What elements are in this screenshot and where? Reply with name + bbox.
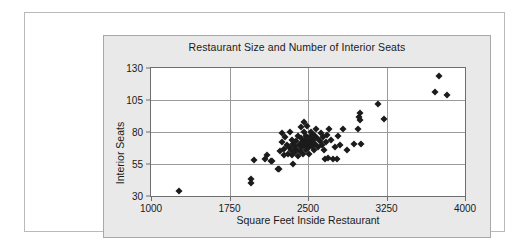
x-tick-label: 2500	[297, 203, 319, 214]
scatter-point	[175, 187, 182, 194]
gridline-vertical	[387, 68, 388, 196]
scatter-point	[343, 146, 350, 153]
scatter-point	[248, 180, 255, 187]
x-tick-mark	[465, 196, 466, 201]
scatter-point	[444, 91, 451, 98]
x-tick-mark	[151, 196, 152, 201]
y-tick-label: 30	[132, 191, 151, 202]
scatter-point	[357, 117, 364, 124]
x-tick-label: 3250	[375, 203, 397, 214]
scatter-point	[287, 128, 294, 135]
x-tick-mark	[308, 196, 309, 201]
x-tick-label: 4000	[454, 203, 476, 214]
scatter-point	[251, 157, 258, 164]
scatter-point	[320, 146, 327, 153]
y-tick-label: 80	[132, 127, 151, 138]
scatter-point	[333, 155, 340, 162]
chart-title: Restaurant Size and Number of Interior S…	[104, 41, 490, 53]
y-tick-label: 105	[126, 95, 151, 106]
chart-panel: Restaurant Size and Number of Interior S…	[103, 35, 491, 238]
scatter-point	[335, 132, 342, 139]
x-tick-label: 1000	[140, 203, 162, 214]
x-tick-mark	[230, 196, 231, 201]
y-axis-label: Interior Seats	[114, 89, 128, 217]
x-tick-label: 1750	[218, 203, 240, 214]
y-tick-label: 55	[132, 159, 151, 170]
scatter-point	[435, 72, 442, 79]
y-tick-label: 130	[126, 63, 151, 74]
gridline-vertical	[230, 68, 231, 196]
screenshot-page: Restaurant Size and Number of Interior S…	[0, 0, 528, 242]
scatter-point	[375, 100, 382, 107]
scatter-point	[337, 141, 344, 148]
plot-area: 30558010513010001750250032504000	[150, 67, 466, 197]
figure-outer-border: Restaurant Size and Number of Interior S…	[24, 12, 505, 232]
x-tick-mark	[387, 196, 388, 201]
scatter-point	[431, 89, 438, 96]
scatter-point	[289, 160, 296, 167]
scatter-point	[358, 140, 365, 147]
x-axis-label: Square Feet Inside Restaurant	[150, 214, 466, 226]
